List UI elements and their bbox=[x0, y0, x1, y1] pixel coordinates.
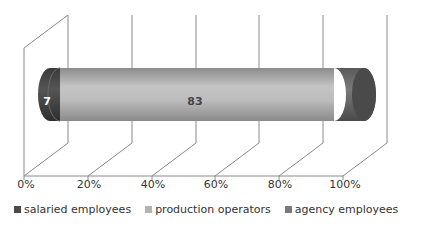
x-tick-label: 40% bbox=[141, 178, 165, 191]
legend-item-salaried: salaried employees bbox=[14, 203, 131, 216]
legend-swatch-icon bbox=[14, 206, 21, 213]
legend: salaried employees production operators … bbox=[14, 203, 398, 216]
chart-canvas bbox=[0, 0, 422, 229]
legend-label: production operators bbox=[155, 203, 271, 216]
stacked-cylinder-bar bbox=[38, 68, 376, 121]
legend-label: agency employees bbox=[295, 203, 399, 216]
bar-end-cap bbox=[352, 68, 376, 121]
x-tick-label: 20% bbox=[77, 178, 101, 191]
legend-label: salaried employees bbox=[24, 203, 131, 216]
data-label-salaried: 7 bbox=[43, 95, 51, 108]
x-tick-label: 80% bbox=[268, 178, 292, 191]
legend-swatch-icon bbox=[145, 206, 152, 213]
data-label-production: 83 bbox=[187, 95, 202, 108]
legend-swatch-icon bbox=[285, 206, 292, 213]
x-tick-label: 0% bbox=[17, 178, 34, 191]
data-label-agency: 9 bbox=[336, 95, 344, 108]
legend-item-production: production operators bbox=[145, 203, 271, 216]
x-tick-label: 100% bbox=[329, 178, 360, 191]
x-tick-label: 60% bbox=[204, 178, 228, 191]
legend-item-agency: agency employees bbox=[285, 203, 399, 216]
